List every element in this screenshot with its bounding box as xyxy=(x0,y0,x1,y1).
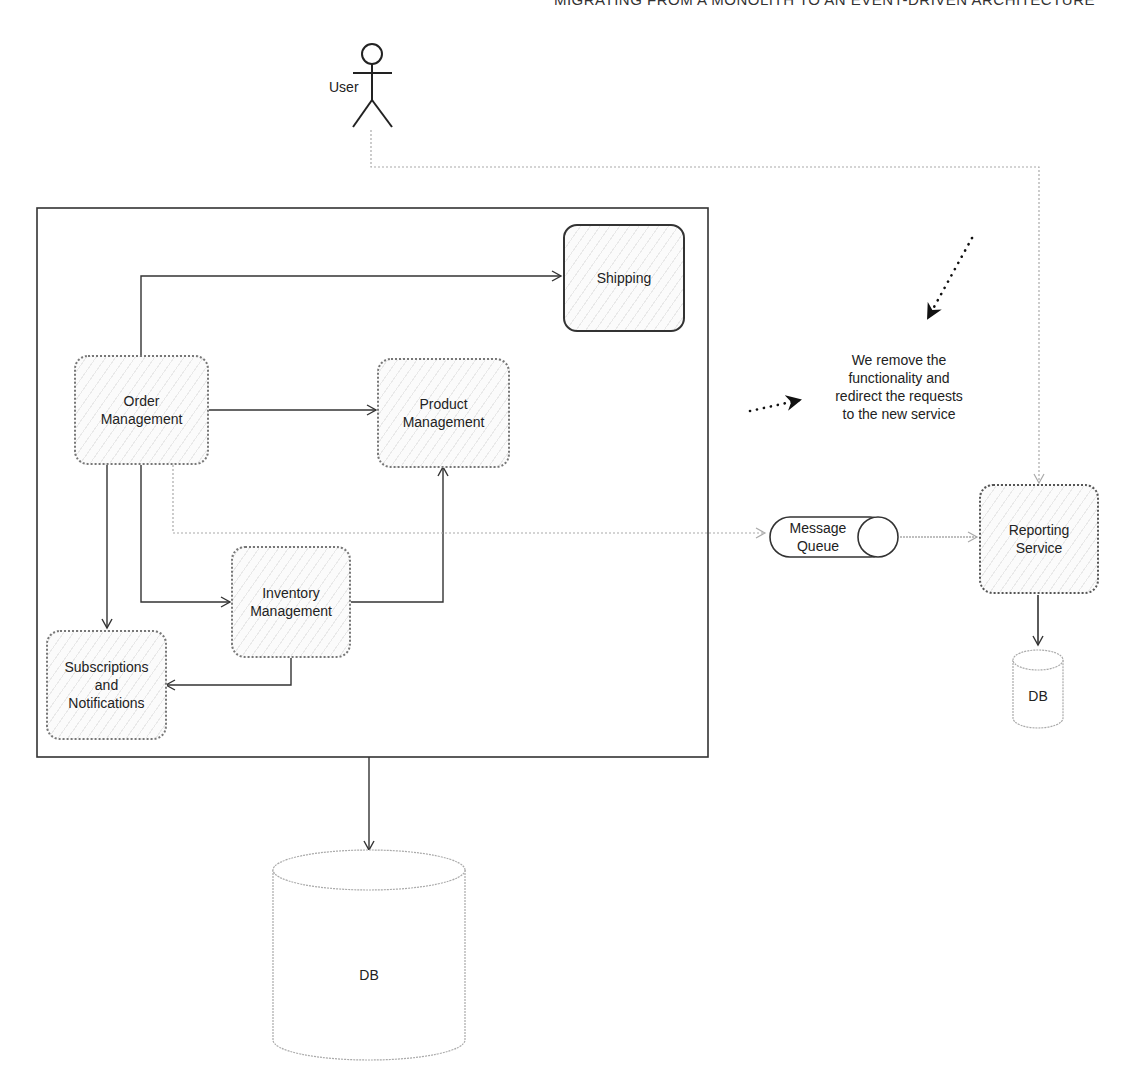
annotation-line3: redirect the requests xyxy=(814,387,984,405)
node-subscriptions-label-line2: and xyxy=(91,676,122,694)
node-subscriptions-label-line3: Notifications xyxy=(64,694,148,712)
annotation-line2: functionality and xyxy=(814,369,984,387)
node-order-management[interactable]: Order Management xyxy=(74,355,209,465)
node-shipping-label: Shipping xyxy=(593,269,656,287)
node-subscriptions-notifications[interactable]: Subscriptions and Notifications xyxy=(46,630,167,740)
node-inventory-management[interactable]: Inventory Management xyxy=(231,546,351,658)
node-reporting-service-label-line1: Reporting xyxy=(1005,521,1074,539)
diagram-canvas xyxy=(0,0,1135,1089)
node-order-management-label-line2: Management xyxy=(97,410,187,428)
monolith-db-cylinder xyxy=(273,850,465,1060)
message-queue-label-line1: Message xyxy=(778,519,858,537)
node-product-management-label-line2: Management xyxy=(399,413,489,431)
message-queue-label-line2: Queue xyxy=(778,537,858,555)
annotation-arrow-diagonal xyxy=(928,238,972,318)
node-subscriptions-label-line1: Subscriptions xyxy=(60,658,152,676)
annotation-line1: We remove the xyxy=(814,351,984,369)
node-reporting-service[interactable]: Reporting Service xyxy=(979,484,1099,594)
node-inventory-management-label-line1: Inventory xyxy=(258,584,324,602)
node-product-management[interactable]: Product Management xyxy=(377,358,510,468)
annotation-line4: to the new service xyxy=(814,405,984,423)
edge-order-to-shipping xyxy=(141,276,561,355)
reporting-db-label: DB xyxy=(1013,688,1063,704)
node-shipping[interactable]: Shipping xyxy=(563,224,685,332)
node-order-management-label-line1: Order xyxy=(120,392,164,410)
edge-inventory-to-subscriptions xyxy=(166,658,291,685)
annotation-text: We remove the functionality and redirect… xyxy=(814,351,984,423)
node-product-management-label-line1: Product xyxy=(415,395,471,413)
annotation-arrow-horizontal xyxy=(750,400,800,411)
edge-order-to-queue xyxy=(173,465,765,533)
edge-inventory-to-product xyxy=(350,467,443,602)
monolith-db-label: DB xyxy=(273,967,465,983)
node-reporting-service-label-line2: Service xyxy=(1012,539,1067,557)
node-inventory-management-label-line2: Management xyxy=(246,602,336,620)
message-queue-label[interactable]: Message Queue xyxy=(778,519,858,555)
user-label: User xyxy=(329,78,359,96)
